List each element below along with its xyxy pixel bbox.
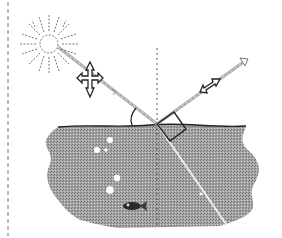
water-body [46, 124, 259, 228]
incident-ray [58, 47, 157, 124]
diagram-canvas: Reflection of sunlight at a water surfac… [0, 0, 282, 238]
cross-arrows-icon [77, 62, 103, 97]
double-arrow-icon [200, 79, 220, 93]
angle-arc [131, 108, 136, 125]
sun-icon [20, 15, 78, 73]
